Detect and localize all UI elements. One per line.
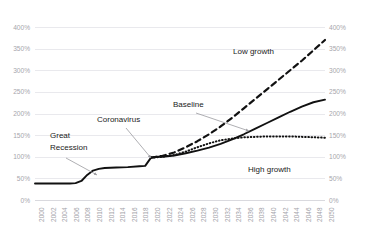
- annotation-baseline: Baseline: [173, 100, 204, 110]
- chart-container: 0%50%100%150%200%250%300%350%400% 0%50%1…: [0, 0, 367, 248]
- annotation-great-recession-line2: Recession: [50, 143, 87, 153]
- annotation-high-growth: High growth: [248, 165, 291, 175]
- series-high-growth: [151, 136, 325, 157]
- arrow-baseline: [196, 113, 249, 131]
- arrow-great-recession: [66, 158, 97, 175]
- arrow-coronavirus: [126, 128, 151, 158]
- annotation-low-growth: Low growth: [233, 47, 274, 57]
- annotation-coronavirus: Coronavirus: [97, 115, 140, 125]
- annotation-great-recession: Great: [50, 131, 70, 141]
- series-layer: [0, 0, 367, 248]
- series-low-growth: [151, 40, 325, 158]
